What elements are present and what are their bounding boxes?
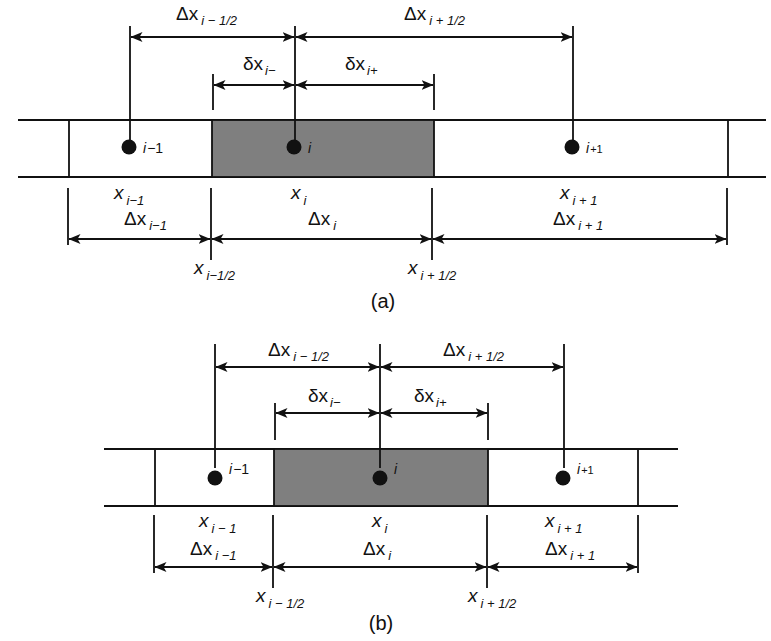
label-x-i-minus-1: xi − 1	[198, 510, 236, 536]
label-dx-i-minus-1: Δxi−1	[124, 208, 167, 233]
label-dx-i-plus-half: Δxi + 1/2	[404, 3, 466, 28]
label-x-i-plus-1: xi + 1	[559, 182, 597, 208]
label-x-i: xi	[371, 510, 389, 536]
node-dot-i-plus-1	[556, 471, 571, 486]
panel-a: Δxi − 1/2 Δxi + 1/2 δxi− δxi+ i−1 i i+1 …	[18, 3, 766, 312]
label-dx-i-plus-1: Δxi + 1	[553, 208, 603, 233]
label-x-i-plus-half: xi + 1/2	[407, 257, 457, 283]
label-x-i-minus-half: xi − 1/2	[255, 585, 305, 611]
label-dx-i-minus-half: Δxi − 1/2	[176, 3, 238, 28]
node-label-i-minus-1: i−1	[229, 461, 249, 477]
finite-volume-grid-figure: Δxi − 1/2 Δxi + 1/2 δxi− δxi+ i−1 i i+1 …	[0, 0, 771, 641]
label-dx-i-minus-1: Δxi −1	[190, 538, 237, 563]
node-label-i-plus-1: i+1	[586, 140, 603, 156]
caption-a: (a)	[371, 290, 395, 312]
caption-b: (b)	[369, 612, 393, 634]
label-dx-i-minus-half: Δxi − 1/2	[268, 339, 330, 364]
node-dot-i-plus-1	[565, 140, 580, 155]
label-x-i-plus-1: xi + 1	[544, 510, 582, 536]
node-dot-i	[373, 471, 388, 486]
label-delta-x-i-plus: δxi+	[345, 53, 378, 78]
label-x-i-plus-half: xi + 1/2	[467, 585, 517, 611]
shaded-cell-i	[212, 120, 434, 177]
node-label-i-plus-1: i+1	[577, 461, 594, 477]
node-dot-i-minus-1	[208, 471, 223, 486]
label-x-i-minus-1: xi−1	[113, 182, 144, 208]
node-dot-i	[287, 140, 302, 155]
label-dx-i: Δxi	[308, 208, 337, 233]
label-dx-i-plus-1: Δxi + 1	[545, 538, 595, 563]
label-delta-x-i-minus: δxi−	[243, 53, 276, 78]
node-dot-i-minus-1	[122, 140, 137, 155]
label-x-i-minus-half: xi−1/2	[193, 257, 236, 283]
label-dx-i-plus-half: Δxi + 1/2	[443, 339, 505, 364]
label-delta-x-i-plus: δxi+	[414, 385, 447, 410]
label-dx-i: Δxi	[363, 538, 392, 563]
label-x-i: xi	[290, 182, 308, 208]
node-label-i-minus-1: i−1	[143, 140, 163, 156]
panel-b: Δxi − 1/2 Δxi + 1/2 δxi− δxi+ i−1 i i+1 …	[104, 339, 678, 634]
label-delta-x-i-minus: δxi−	[308, 385, 341, 410]
